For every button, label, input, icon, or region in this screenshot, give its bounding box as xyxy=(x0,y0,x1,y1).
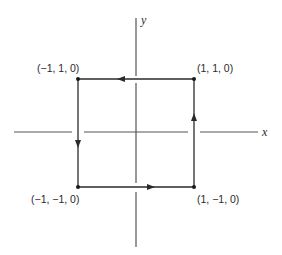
label-top-right: (1, 1, 0) xyxy=(197,62,233,74)
vertex-top-right xyxy=(192,77,196,81)
label-top-left: (−1, 1, 0) xyxy=(37,62,79,74)
arrow-up-icon xyxy=(191,113,197,121)
label-bottom-right: (1, −1, 0) xyxy=(197,193,239,205)
vertex-top-left xyxy=(76,77,80,81)
arrow-left-icon xyxy=(117,76,125,82)
label-bottom-left: (−1, −1, 0) xyxy=(31,193,79,205)
vertex-bottom-left xyxy=(76,185,80,189)
arrow-right-icon xyxy=(147,184,155,190)
vertex-bottom-right xyxy=(192,185,196,189)
arrow-down-icon xyxy=(75,140,81,148)
diagram-svg: y x (−1, 1, 0) xyxy=(0,0,282,255)
y-axis-label: y xyxy=(140,13,147,27)
x-axis-label: x xyxy=(261,125,268,139)
square-path-diagram: y x (−1, 1, 0) xyxy=(0,0,282,255)
